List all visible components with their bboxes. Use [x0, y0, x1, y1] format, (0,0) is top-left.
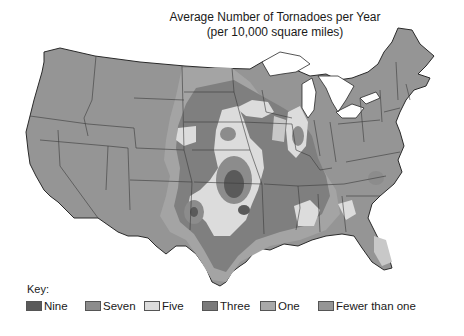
legend-label-nine: Nine — [44, 300, 68, 312]
legend-label-fewer-than-one: Fewer than one — [336, 300, 416, 312]
zone-nine-texas — [190, 207, 198, 217]
swatch-seven — [85, 301, 101, 311]
legend-item-seven: Seven — [85, 300, 136, 312]
zone-nine-oklahoma — [238, 205, 250, 215]
key-label: Key: — [27, 283, 49, 295]
swatch-nine — [26, 301, 42, 311]
legend-item-five: Five — [144, 300, 184, 312]
legend-label-one: One — [278, 300, 300, 312]
legend-label-seven: Seven — [103, 300, 136, 312]
zone-five-iowa-east — [272, 116, 286, 142]
zone-seven-nebraska — [220, 127, 236, 141]
legend-item-fewer-than-one: Fewer than one — [318, 300, 416, 312]
legend-item-one: One — [260, 300, 300, 312]
legend-item-nine: Nine — [26, 300, 68, 312]
legend-item-three: Three — [202, 300, 250, 312]
legend-label-five: Five — [162, 300, 184, 312]
swatch-fewer-than-one — [318, 301, 334, 311]
us-tornado-map — [0, 0, 464, 336]
zone-nine-kansas — [224, 170, 244, 198]
legend-label-three: Three — [220, 300, 250, 312]
swatch-one — [260, 301, 276, 311]
swatch-three — [202, 301, 218, 311]
swatch-five — [144, 301, 160, 311]
